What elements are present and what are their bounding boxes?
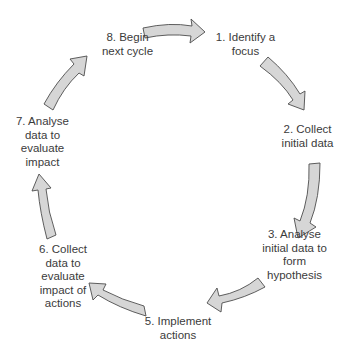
step-3-label: 3. Analyse initial data to form hypothes… bbox=[252, 228, 337, 282]
arrow-7-to-8 bbox=[44, 56, 87, 110]
arrow-6-to-7 bbox=[32, 174, 56, 239]
arrow-1-to-2 bbox=[260, 57, 305, 110]
step-8-label: 8. Begin next cycle bbox=[90, 31, 165, 58]
step-7-label: 7. Analyse data to evaluate impact bbox=[10, 115, 75, 169]
step-1-label: 1. Identify a focus bbox=[208, 31, 283, 58]
step-2-label: 2. Collect initial data bbox=[270, 123, 341, 150]
arrow-2-to-3 bbox=[294, 163, 320, 238]
step-6-label: 6. Collect data to evaluate impact of ac… bbox=[28, 243, 98, 311]
arrow-3-to-5 bbox=[207, 278, 265, 312]
step-5-label: 5. Implement actions bbox=[138, 315, 218, 342]
